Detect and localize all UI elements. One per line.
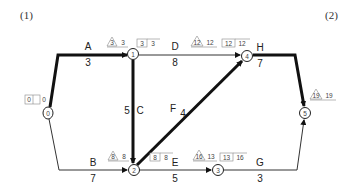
activity-h-duration: 7 <box>257 58 263 69</box>
activity-b-name: B <box>90 157 97 168</box>
node-4-time-triangle: 12 12 <box>191 36 217 47</box>
svg-text:13: 13 <box>207 153 215 160</box>
svg-text:3: 3 <box>110 39 114 46</box>
activity-f-name: F <box>170 103 176 114</box>
svg-text:8: 8 <box>122 153 126 160</box>
node-1-time-triangle: 3 3 <box>107 37 128 47</box>
svg-text:12: 12 <box>206 39 214 46</box>
svg-text:3: 3 <box>151 40 155 47</box>
activity-f-arrow <box>137 61 242 165</box>
activity-d-name: D <box>171 41 178 52</box>
activity-g-duration: 3 <box>257 173 263 184</box>
activity-f-duration: 4 <box>180 108 186 119</box>
svg-text:8: 8 <box>164 154 168 161</box>
activity-g-arrow <box>224 120 304 170</box>
node-3: 3 <box>213 165 224 176</box>
node-2-time-triangle: 8 8 <box>108 151 129 161</box>
activity-b-arrow <box>49 119 127 170</box>
node-2: 2 <box>129 165 140 176</box>
svg-text:16: 16 <box>195 153 203 160</box>
svg-text:1: 1 <box>131 51 135 58</box>
node-3-time-triangle: 16 13 <box>193 150 217 161</box>
svg-text:3: 3 <box>216 167 220 174</box>
svg-text:3: 3 <box>121 39 125 46</box>
svg-text:19: 19 <box>312 92 320 99</box>
activity-c-name: C <box>136 105 143 116</box>
activity-d-duration: 8 <box>172 57 178 68</box>
node-4: 4 <box>242 51 253 62</box>
activity-e-name: E <box>172 157 179 168</box>
figure-label-1: (1) <box>20 9 33 22</box>
svg-text:16: 16 <box>236 154 244 161</box>
activity-a-name: A <box>85 41 92 52</box>
node-3-time-box: 13 16 <box>220 153 247 161</box>
svg-text:12: 12 <box>193 39 201 46</box>
figure-label-2: (2) <box>325 9 338 22</box>
network-diagram: (1) (2) A 3 B 7 5 C D 8 E 5 F 4 G 3 H 7 … <box>0 0 357 194</box>
node-5: 5 <box>300 108 311 119</box>
svg-text:13: 13 <box>223 154 231 161</box>
svg-text:8: 8 <box>153 154 157 161</box>
svg-text:3: 3 <box>140 40 144 47</box>
svg-text:0: 0 <box>27 96 31 103</box>
activity-b-duration: 7 <box>90 173 96 184</box>
svg-text:4: 4 <box>245 53 249 60</box>
svg-text:0: 0 <box>46 110 50 117</box>
node-0: 0 <box>43 107 53 119</box>
svg-text:0: 0 <box>42 96 46 103</box>
svg-text:19: 19 <box>325 92 333 99</box>
node-2-time-box: 8 8 <box>150 153 173 161</box>
node-0-time-box: 0 0 <box>25 95 46 104</box>
activity-h-name: H <box>256 42 263 53</box>
activity-e-duration: 5 <box>172 173 178 184</box>
node-1: 1 <box>128 49 139 60</box>
node-5-time-triangle: 19 19 <box>310 89 336 100</box>
node-1-time-box: 3 3 <box>137 39 160 47</box>
svg-text:5: 5 <box>303 110 307 117</box>
svg-text:8: 8 <box>111 153 115 160</box>
svg-text:12: 12 <box>225 40 233 47</box>
activity-a-duration: 3 <box>85 57 91 68</box>
activity-c-duration: 5 <box>124 105 130 116</box>
activity-g-name: G <box>256 157 264 168</box>
svg-text:12: 12 <box>238 40 246 47</box>
node-4-time-box: 12 12 <box>222 39 250 47</box>
svg-text:2: 2 <box>132 167 136 174</box>
